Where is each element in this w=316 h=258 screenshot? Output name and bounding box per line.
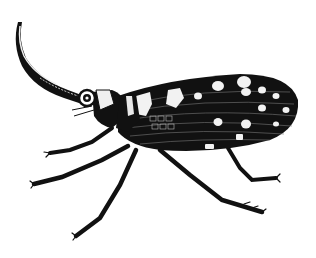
lanternfly-illustration <box>0 0 316 258</box>
illustration-canvas <box>0 0 316 258</box>
forewing <box>118 74 298 151</box>
head-thorax <box>92 90 140 132</box>
eye <box>79 90 95 106</box>
antennae <box>72 106 94 116</box>
snout <box>16 22 84 104</box>
